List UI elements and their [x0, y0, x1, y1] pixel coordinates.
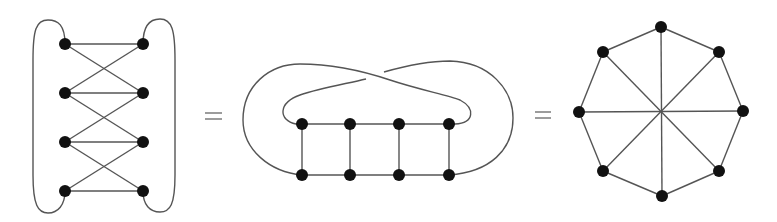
edge-O8-O1: [603, 27, 661, 52]
edge-O2-O3: [719, 52, 743, 111]
edge-O5-O6: [603, 171, 662, 196]
graph-octagon-with-diameters: [573, 21, 749, 202]
vertex-O7: [573, 106, 585, 118]
vertex-L2: [59, 87, 71, 99]
outer-loop-right: [143, 19, 175, 212]
diagram-canvas: [0, 0, 777, 222]
edge-O1-O2: [661, 27, 719, 52]
vertex-T2: [344, 118, 356, 130]
vertex-R4: [137, 185, 149, 197]
vertex-O2: [713, 46, 725, 58]
vertex-R3: [137, 136, 149, 148]
vertex-T3: [393, 118, 405, 130]
vertex-R1: [137, 38, 149, 50]
vertex-O8: [597, 46, 609, 58]
vertex-L4: [59, 185, 71, 197]
vertex-L3: [59, 136, 71, 148]
vertex-R2: [137, 87, 149, 99]
graph-crossed-ladder: [33, 19, 175, 213]
edge-O3-O4: [719, 111, 743, 171]
vertex-B4: [443, 169, 455, 181]
vertex-B1: [296, 169, 308, 181]
vertex-T4: [443, 118, 455, 130]
vertex-O5: [656, 190, 668, 202]
equals-sign-1: [205, 113, 222, 119]
vertex-B2: [344, 169, 356, 181]
vertex-B3: [393, 169, 405, 181]
vertex-T1: [296, 118, 308, 130]
outer-loop-top-left-to-bottom-right-a: [283, 79, 366, 124]
vertex-O6: [597, 165, 609, 177]
edge-O4-O5: [662, 171, 719, 196]
vertex-L1: [59, 38, 71, 50]
vertex-O1: [655, 21, 667, 33]
graph-equivalence-diagram: [0, 0, 777, 222]
graph-twisted-ladder: [243, 61, 513, 181]
outer-loop-left: [33, 20, 65, 213]
equals-sign-2: [535, 112, 551, 118]
edge-O7-O8: [579, 52, 603, 112]
vertex-O3: [737, 105, 749, 117]
edge-O6-O7: [579, 112, 603, 171]
vertex-O4: [713, 165, 725, 177]
